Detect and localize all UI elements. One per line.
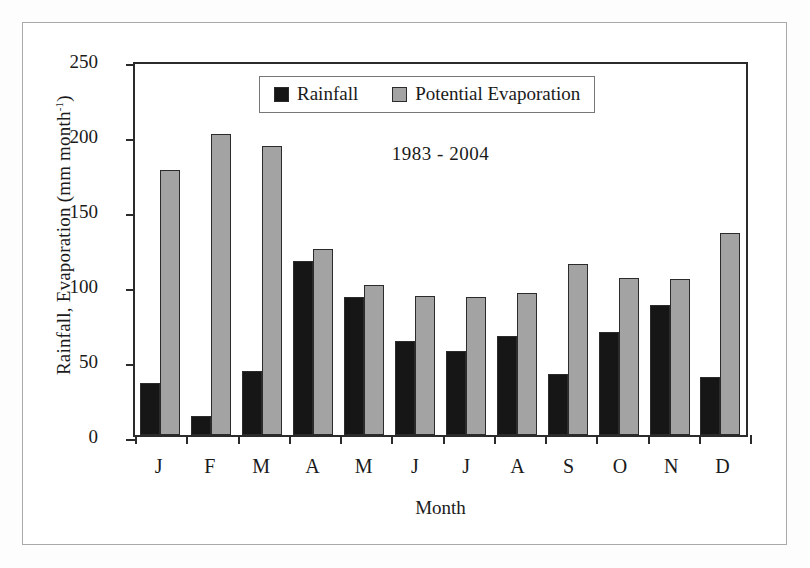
x-axis-tick-label: O bbox=[613, 455, 627, 478]
bars-layer bbox=[135, 64, 746, 435]
bar-rainfall bbox=[700, 377, 720, 436]
bar-group bbox=[544, 64, 592, 435]
y-axis-tick-label: 150 bbox=[0, 201, 111, 223]
x-axis-tick bbox=[596, 435, 598, 444]
x-axis-tick bbox=[186, 435, 188, 444]
chart-title: 1983 - 2004 bbox=[133, 143, 748, 165]
bar-group bbox=[238, 64, 286, 435]
bar-rainfall bbox=[395, 341, 415, 436]
legend-item-label: Rainfall bbox=[297, 83, 358, 105]
y-axis-tick bbox=[126, 439, 135, 441]
x-axis-tick bbox=[443, 435, 445, 444]
x-axis-tick bbox=[750, 435, 752, 444]
bar-evaporation bbox=[466, 297, 486, 435]
x-axis-tick-label: N bbox=[664, 455, 678, 478]
chart-legend: RainfallPotential Evaporation bbox=[259, 76, 595, 113]
bar-evaporation bbox=[619, 278, 639, 436]
x-axis-tick-label: J bbox=[411, 455, 419, 478]
bar-group bbox=[289, 64, 337, 435]
bar-evaporation bbox=[364, 285, 384, 435]
bar-group bbox=[340, 64, 388, 435]
x-axis-title: Month bbox=[133, 497, 748, 519]
bar-rainfall bbox=[344, 297, 364, 435]
bar-rainfall bbox=[140, 383, 160, 436]
x-axis-tick bbox=[545, 435, 547, 444]
legend-item-label: Potential Evaporation bbox=[415, 83, 580, 105]
bar-group bbox=[696, 64, 744, 435]
bar-group bbox=[493, 64, 541, 435]
legend-item: Rainfall bbox=[274, 83, 358, 105]
bar-evaporation bbox=[670, 279, 690, 435]
x-axis-tick bbox=[289, 435, 291, 444]
y-axis-tick bbox=[126, 214, 135, 216]
y-axis-tick-label: 100 bbox=[0, 276, 111, 298]
bar-group bbox=[595, 64, 643, 435]
legend-item: Potential Evaporation bbox=[392, 83, 580, 105]
x-axis-tick-label: S bbox=[563, 455, 574, 478]
x-axis-tick-label: A bbox=[510, 455, 524, 478]
bar-evaporation bbox=[568, 264, 588, 435]
bar-evaporation bbox=[262, 146, 282, 436]
black-square-icon bbox=[274, 87, 289, 102]
x-axis-tick-label: F bbox=[204, 455, 215, 478]
bar-group bbox=[187, 64, 235, 435]
bar-rainfall bbox=[242, 371, 262, 436]
bar-rainfall bbox=[497, 336, 517, 435]
bar-evaporation bbox=[415, 296, 435, 436]
bar-group bbox=[391, 64, 439, 435]
bar-rainfall bbox=[548, 374, 568, 436]
bar-evaporation bbox=[211, 134, 231, 436]
y-axis-tick bbox=[126, 139, 135, 141]
y-axis-title-superscript: -1 bbox=[53, 102, 65, 112]
y-axis-title-text: Rainfall, Evaporation (mm month bbox=[53, 111, 74, 375]
x-axis-tick-label: J bbox=[462, 455, 470, 478]
bar-evaporation bbox=[720, 233, 740, 436]
x-axis-tick bbox=[238, 435, 240, 444]
bar-rainfall bbox=[599, 332, 619, 436]
y-axis-tick bbox=[126, 364, 135, 366]
y-axis-tick-label: 0 bbox=[0, 426, 111, 448]
bar-rainfall bbox=[191, 416, 211, 436]
x-axis-tick-label: M bbox=[252, 455, 270, 478]
x-axis-tick bbox=[494, 435, 496, 444]
bar-rainfall bbox=[446, 351, 466, 435]
bar-evaporation bbox=[517, 293, 537, 436]
y-axis-title-tail: ) bbox=[53, 95, 74, 102]
y-axis-tick bbox=[126, 64, 135, 66]
gray-square-icon bbox=[392, 87, 407, 102]
x-axis-tick bbox=[699, 435, 701, 444]
plot-area bbox=[133, 62, 748, 437]
bar-rainfall bbox=[293, 261, 313, 435]
x-axis-tick bbox=[391, 435, 393, 444]
bar-evaporation bbox=[160, 170, 180, 436]
y-axis-tick-label: 200 bbox=[0, 126, 111, 148]
bar-group bbox=[646, 64, 694, 435]
chart-figure: Rainfall, Evaporation (mm month-1) 05010… bbox=[0, 0, 810, 568]
y-axis-tick bbox=[126, 289, 135, 291]
x-axis-tick bbox=[340, 435, 342, 444]
x-axis-tick-label: A bbox=[305, 455, 319, 478]
x-axis-tick-label: J bbox=[155, 455, 163, 478]
y-axis-tick-label: 250 bbox=[0, 51, 111, 73]
x-axis-tick-label: D bbox=[715, 455, 729, 478]
bar-evaporation bbox=[313, 249, 333, 435]
x-axis-tick-label: M bbox=[355, 455, 373, 478]
bar-group bbox=[136, 64, 184, 435]
x-axis-tick bbox=[648, 435, 650, 444]
bar-group bbox=[442, 64, 490, 435]
y-axis-tick-label: 50 bbox=[0, 351, 111, 373]
x-axis-tick bbox=[135, 435, 137, 444]
bar-rainfall bbox=[650, 305, 670, 436]
